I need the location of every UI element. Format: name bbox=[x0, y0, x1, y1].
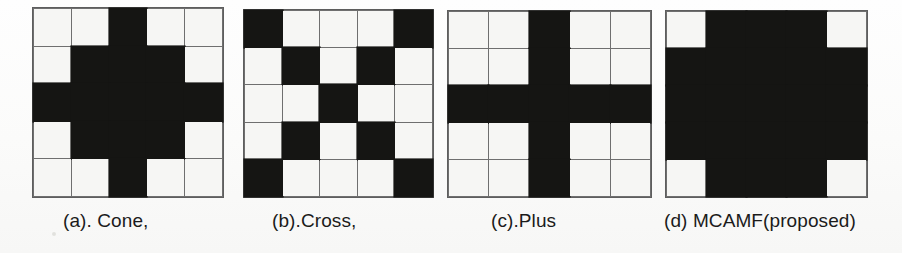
grid-cell bbox=[185, 159, 222, 196]
grid-cell bbox=[611, 123, 650, 159]
grid-cell bbox=[570, 12, 609, 48]
panel-plus: (c).Plus bbox=[448, 11, 651, 234]
grid-cell bbox=[72, 122, 109, 159]
grid-cell bbox=[707, 123, 746, 159]
grid-cell bbox=[358, 123, 395, 159]
grid-cell bbox=[787, 49, 826, 85]
grid-cell bbox=[283, 48, 320, 84]
panel-caption-cone: (a). Cone, bbox=[63, 211, 148, 230]
grid-cell bbox=[358, 48, 395, 84]
grid-cell bbox=[283, 123, 320, 159]
grid-cell bbox=[747, 49, 786, 85]
grid-cell bbox=[449, 123, 488, 159]
grid-cell bbox=[530, 160, 569, 196]
panel-cross: (b).Cross, bbox=[244, 10, 433, 234]
grid-cell bbox=[530, 49, 569, 85]
grid-cell bbox=[787, 86, 826, 122]
grid-cell bbox=[110, 159, 147, 196]
grid-cell bbox=[449, 86, 488, 122]
structuring-element-grid-plus[interactable] bbox=[448, 11, 651, 197]
grid-cell bbox=[395, 160, 432, 196]
grid-cell bbox=[358, 11, 395, 47]
grid-cell bbox=[667, 49, 706, 85]
grid-cell bbox=[827, 86, 866, 122]
grid-cell bbox=[611, 86, 650, 122]
grid-cell bbox=[34, 84, 71, 121]
panel-caption-cross: (b).Cross, bbox=[272, 211, 356, 230]
grid-cell bbox=[283, 85, 320, 121]
grid-cell bbox=[34, 9, 71, 46]
grid-cell bbox=[185, 84, 222, 121]
panel-mcamf: (d) MCAMF(proposed) bbox=[666, 11, 867, 234]
grid-cell bbox=[707, 160, 746, 196]
grid-cell bbox=[110, 9, 147, 46]
grid-cell bbox=[747, 123, 786, 159]
grid-cell bbox=[395, 85, 432, 121]
grid-cell bbox=[787, 12, 826, 48]
grid-cell bbox=[395, 48, 432, 84]
grid-cell bbox=[147, 159, 184, 196]
grid-cell bbox=[449, 49, 488, 85]
grid-cell bbox=[245, 85, 282, 121]
grid-cell bbox=[245, 160, 282, 196]
structuring-element-grid-mcamf[interactable] bbox=[666, 11, 867, 197]
grid-cell bbox=[489, 86, 528, 122]
grid-cell bbox=[320, 123, 357, 159]
grid-cell bbox=[489, 49, 528, 85]
grid-cell bbox=[530, 123, 569, 159]
grid-cell bbox=[489, 123, 528, 159]
panel-caption-mcamf: (d) MCAMF(proposed) bbox=[664, 211, 856, 230]
grid-cell bbox=[34, 122, 71, 159]
grid-cell bbox=[707, 49, 746, 85]
grid-cell bbox=[667, 86, 706, 122]
grid-cell bbox=[395, 123, 432, 159]
grid-cell bbox=[570, 123, 609, 159]
figure-root: (a). Cone, (b).Cross, (c).Plus (d) MCAMF… bbox=[0, 0, 902, 253]
grid-cell bbox=[787, 123, 826, 159]
grid-cell bbox=[489, 12, 528, 48]
grid-cell bbox=[245, 11, 282, 47]
grid-cell bbox=[530, 86, 569, 122]
grid-cell bbox=[449, 160, 488, 196]
panel-caption-plus: (c).Plus bbox=[491, 211, 556, 230]
grid-cell bbox=[747, 86, 786, 122]
grid-cell bbox=[320, 160, 357, 196]
grid-cell bbox=[570, 86, 609, 122]
grid-cell bbox=[245, 123, 282, 159]
grid-cell bbox=[489, 160, 528, 196]
structuring-element-grid-cone[interactable] bbox=[33, 8, 223, 197]
grid-cell bbox=[707, 12, 746, 48]
grid-cell bbox=[570, 49, 609, 85]
grid-cell bbox=[530, 12, 569, 48]
grid-cell bbox=[72, 9, 109, 46]
grid-cell bbox=[34, 47, 71, 84]
grid-cell bbox=[283, 11, 320, 47]
grid-cell bbox=[72, 84, 109, 121]
grid-cell bbox=[110, 84, 147, 121]
structuring-element-grid-cross[interactable] bbox=[244, 10, 433, 197]
grid-cell bbox=[395, 11, 432, 47]
grid-cell bbox=[611, 49, 650, 85]
grid-cell bbox=[185, 9, 222, 46]
grid-cell bbox=[34, 159, 71, 196]
grid-cell bbox=[667, 160, 706, 196]
grid-cell bbox=[185, 122, 222, 159]
grid-cell bbox=[147, 47, 184, 84]
grid-cell bbox=[110, 47, 147, 84]
grid-cell bbox=[747, 160, 786, 196]
grid-cell bbox=[449, 12, 488, 48]
grid-cell bbox=[147, 84, 184, 121]
grid-cell bbox=[707, 86, 746, 122]
grid-cell bbox=[570, 160, 609, 196]
grid-cell bbox=[147, 122, 184, 159]
grid-cell bbox=[358, 85, 395, 121]
grid-cell bbox=[320, 85, 357, 121]
grid-cell bbox=[320, 48, 357, 84]
grid-cell bbox=[283, 160, 320, 196]
grid-cell bbox=[185, 47, 222, 84]
panel-cone: (a). Cone, bbox=[33, 8, 223, 234]
grid-cell bbox=[358, 160, 395, 196]
grid-cell bbox=[611, 160, 650, 196]
grid-cell bbox=[72, 159, 109, 196]
grid-cell bbox=[667, 123, 706, 159]
